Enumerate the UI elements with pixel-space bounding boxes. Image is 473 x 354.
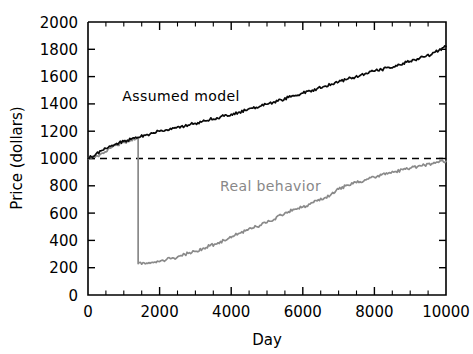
y-tick-label-600: 600: [49, 205, 78, 223]
x-tick-label-2000: 2000: [141, 303, 179, 321]
y-tick-label-1800: 1800: [40, 41, 78, 59]
assumed-model-label: Assumed model: [122, 88, 239, 104]
y-tick-label-1600: 1600: [40, 68, 78, 86]
x-tick-label-10000: 10000: [422, 303, 470, 321]
x-tick-label-0: 0: [83, 303, 93, 321]
x-axis-title: Day: [252, 331, 282, 349]
y-tick-label-0: 0: [68, 287, 78, 305]
real-behavior-label: Real behavior: [220, 178, 321, 194]
price-line-chart: 0200400600800100012001400160018002000 02…: [0, 0, 473, 354]
y-tick-label-1000: 1000: [40, 150, 78, 168]
y-tick-label-1200: 1200: [40, 123, 78, 141]
y-tick-label-800: 800: [49, 177, 78, 195]
chart-container: 0200400600800100012001400160018002000 02…: [0, 0, 473, 354]
y-tick-label-400: 400: [49, 232, 78, 250]
x-tick-label-8000: 8000: [355, 303, 393, 321]
y-axis-title: Price (dollars): [8, 106, 26, 209]
x-tick-label-4000: 4000: [212, 303, 250, 321]
x-tick-label-6000: 6000: [284, 303, 322, 321]
y-tick-label-200: 200: [49, 259, 78, 277]
y-tick-label-2000: 2000: [40, 14, 78, 32]
y-tick-label-1400: 1400: [40, 95, 78, 113]
